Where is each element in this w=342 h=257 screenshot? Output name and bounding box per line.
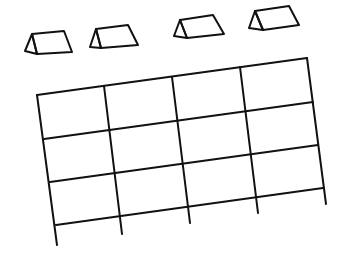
diagram-canvas: Line drawing of four tent-shaped table c… (0, 0, 342, 257)
grid-group (37, 58, 326, 245)
tent-2 (90, 25, 138, 48)
tent-3 (174, 15, 224, 38)
grid-vertical-line-4 (240, 67, 258, 213)
tent-cards-group (25, 6, 299, 54)
grid-vertical-line-1 (37, 95, 57, 245)
tent-4 (249, 6, 299, 30)
tent-side-face (174, 20, 187, 38)
tent-side-face (25, 34, 37, 54)
grid-vertical-line-5 (307, 58, 326, 204)
tent-side-face (90, 29, 101, 48)
tent-1 (25, 31, 72, 54)
diagram-svg (0, 0, 342, 257)
tent-front-face (96, 25, 138, 48)
grid-vertical-line-2 (104, 86, 122, 234)
grid-vertical-line-3 (172, 77, 190, 223)
tent-side-face (249, 11, 263, 30)
tent-front-face (32, 31, 72, 54)
